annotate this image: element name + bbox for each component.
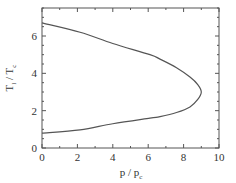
series-line xyxy=(42,23,201,133)
x-tick-label: 6 xyxy=(145,151,151,163)
x-tick-label: 2 xyxy=(75,151,81,163)
x-tick-label: 10 xyxy=(214,151,226,163)
y-tick-label: 0 xyxy=(32,142,38,154)
y-tick-label: 2 xyxy=(32,105,38,117)
x-tick-label: 8 xyxy=(181,151,187,163)
y-tick-label: 6 xyxy=(32,30,38,42)
y-axis-label: Tl / Tc xyxy=(3,65,18,92)
x-axis-label: p / pc xyxy=(120,166,143,181)
x-tick-label: 4 xyxy=(110,151,116,163)
chart: 02468100246 p / pc Tl / Tc xyxy=(0,0,236,183)
x-tick-label: 0 xyxy=(39,151,45,163)
y-tick-label: 4 xyxy=(32,67,38,79)
